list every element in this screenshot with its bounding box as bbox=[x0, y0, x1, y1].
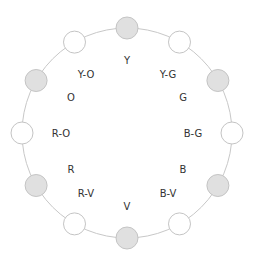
color-wheel-diagram: YY-GGB-GBB-VVR-VRR-OOY-O bbox=[0, 0, 254, 266]
hue-label: V bbox=[124, 201, 131, 212]
hue-label: Y-O bbox=[77, 69, 95, 80]
hue-label: R-O bbox=[52, 128, 70, 139]
hue-label: B bbox=[180, 164, 187, 175]
hue-label: G bbox=[179, 92, 187, 103]
wheel-node-white bbox=[221, 122, 243, 144]
hue-label: B-V bbox=[160, 188, 177, 199]
wheel-node-gray bbox=[116, 17, 138, 39]
wheel-node-gray bbox=[116, 227, 138, 249]
hue-label: Y bbox=[123, 55, 131, 66]
hue-label: R-V bbox=[78, 188, 95, 199]
wheel-node-white bbox=[11, 122, 33, 144]
hue-label: Y-G bbox=[159, 69, 177, 80]
wheel-node-white bbox=[64, 213, 86, 235]
wheel-node-gray bbox=[25, 70, 47, 92]
hue-label: R bbox=[68, 164, 75, 175]
wheel-node-white bbox=[64, 31, 86, 53]
wheel-node-white bbox=[169, 31, 191, 53]
wheel-node-white bbox=[169, 213, 191, 235]
wheel-node-gray bbox=[207, 175, 229, 197]
wheel-labels: YY-GGB-GBB-VVR-VRR-OOY-O bbox=[52, 55, 202, 212]
hue-label: B-G bbox=[184, 128, 203, 139]
hue-label: O bbox=[67, 92, 75, 103]
wheel-node-gray bbox=[25, 175, 47, 197]
wheel-nodes bbox=[11, 17, 243, 249]
wheel-node-gray bbox=[207, 70, 229, 92]
